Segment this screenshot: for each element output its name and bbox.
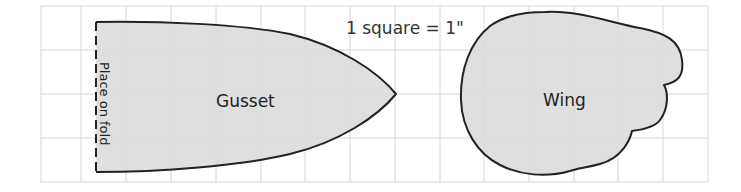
- wing-label: Wing: [543, 90, 586, 110]
- place-on-fold-label: Place on fold: [97, 62, 112, 145]
- gusset-label: Gusset: [216, 91, 275, 111]
- scale-legend: 1 square = 1": [346, 18, 464, 38]
